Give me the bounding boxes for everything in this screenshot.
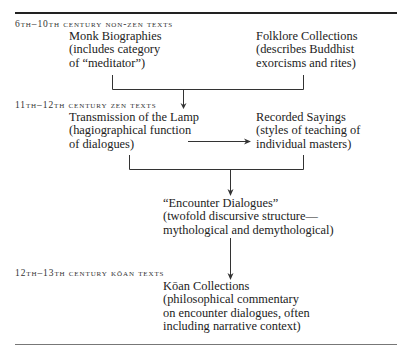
- bottom-rule: [15, 344, 397, 345]
- connector-lines: [0, 0, 409, 358]
- bracket-zen: [130, 155, 304, 170]
- arrowheads: [181, 103, 252, 280]
- bracket-non-zen: [113, 75, 304, 90]
